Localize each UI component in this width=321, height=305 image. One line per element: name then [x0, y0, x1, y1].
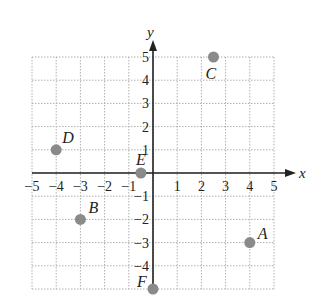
x-tick-label: −4: [49, 179, 64, 194]
y-tick-label: −2: [134, 212, 149, 227]
y-axis-label: y: [145, 24, 154, 40]
y-tick-label: −3: [134, 236, 149, 251]
y-tick-label: 4: [142, 73, 149, 88]
x-tick-label: 4: [246, 179, 253, 194]
point-b-label: B: [88, 199, 98, 216]
tick-labels: −5−4−3−2−11234554321−1−2−3−4: [25, 50, 278, 274]
axes: xy: [32, 24, 306, 289]
point-d-label: D: [61, 129, 74, 146]
x-tick-label: 2: [198, 179, 205, 194]
y-tick-label: −1: [134, 189, 149, 204]
point-f-label: F: [136, 273, 147, 290]
coordinate-plane: xy −5−4−3−2−11234554321−1−2−3−4 ABCDEF: [0, 0, 321, 305]
point-e-label: E: [135, 151, 146, 168]
point-b-marker: [75, 214, 86, 225]
point-e-marker: [135, 168, 146, 179]
point-c-label: C: [206, 65, 217, 82]
y-axis-arrow-icon: [149, 40, 157, 51]
point-a-label: A: [257, 225, 268, 242]
point-a-marker: [244, 237, 255, 248]
x-tick-label: −3: [73, 179, 88, 194]
x-axis-arrow-icon: [285, 169, 296, 177]
y-tick-label: 5: [142, 50, 149, 65]
x-tick-label: 5: [271, 179, 278, 194]
x-axis-label: x: [298, 165, 306, 181]
x-tick-label: −5: [25, 179, 40, 194]
y-tick-label: 2: [142, 120, 149, 135]
point-c-marker: [208, 52, 219, 63]
x-tick-label: 3: [222, 179, 229, 194]
y-tick-label: 3: [142, 96, 149, 111]
x-tick-label: −2: [97, 179, 112, 194]
y-tick-label: −4: [134, 259, 149, 274]
x-tick-label: 1: [174, 179, 181, 194]
point-d-marker: [51, 144, 62, 155]
point-f-marker: [148, 284, 159, 295]
